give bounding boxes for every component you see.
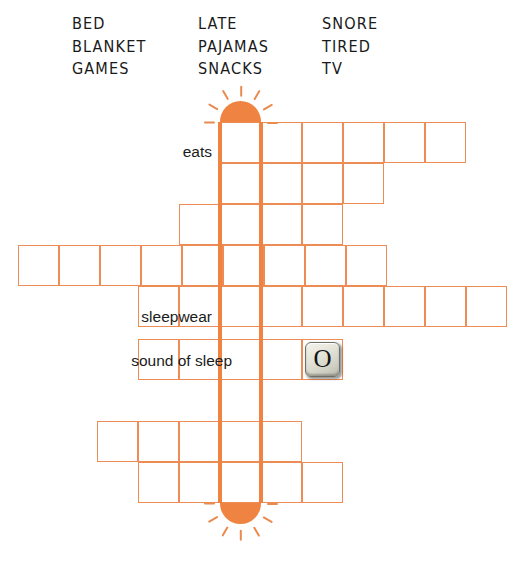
grid-cell[interactable] [261, 421, 302, 462]
grid-cell[interactable] [220, 204, 261, 245]
sun-ray-icon [263, 516, 273, 523]
grid-cell[interactable] [425, 286, 466, 327]
crossword-page: BED BLANKET GAMES LATE PAJAMAS SNACKS SN… [0, 0, 517, 561]
sun-ray-icon [204, 122, 215, 124]
grid-cell[interactable] [18, 245, 59, 286]
grid-cell[interactable] [384, 122, 425, 163]
grid-cell[interactable] [182, 245, 223, 286]
grid-cell[interactable] [302, 163, 343, 204]
sun-icon [220, 503, 261, 524]
grid-cell[interactable] [302, 286, 343, 327]
grid-cell[interactable] [100, 245, 141, 286]
sun-ray-icon [208, 104, 218, 111]
grid-cell[interactable] [261, 286, 302, 327]
thermometer-rail [218, 122, 221, 503]
grid-cell[interactable] [179, 421, 220, 462]
grid-cell[interactable] [384, 286, 425, 327]
prefilled-letter: O [313, 346, 331, 371]
crossword-grid: O [0, 0, 517, 561]
grid-cell[interactable] [223, 245, 264, 286]
grid-cell[interactable] [220, 421, 261, 462]
grid-cell[interactable] [220, 462, 261, 503]
grid-cell[interactable] [220, 163, 261, 204]
grid-cell[interactable] [302, 204, 343, 245]
sun-ray-icon [240, 86, 242, 97]
sun-ray-icon [208, 516, 218, 523]
grid-cell[interactable] [138, 421, 179, 462]
grid-cell[interactable] [97, 421, 138, 462]
grid-cell[interactable] [179, 462, 220, 503]
sun-ray-icon [204, 503, 215, 505]
sun-ray-icon [267, 503, 278, 505]
grid-cell[interactable] [220, 286, 261, 327]
clue-sound-of-sleep: sound of sleep [0, 352, 232, 370]
grid-cell[interactable] [138, 462, 179, 503]
grid-cell[interactable] [179, 204, 220, 245]
grid-cell[interactable] [264, 245, 305, 286]
grid-cell[interactable] [220, 122, 261, 163]
sun-ray-icon [253, 90, 260, 100]
sun-ray-icon [221, 90, 228, 100]
grid-cell[interactable] [302, 122, 343, 163]
sun-ray-icon [240, 530, 242, 541]
grid-cell[interactable] [261, 163, 302, 204]
thermometer-rail [259, 122, 262, 503]
clue-eats: eats [60, 143, 212, 161]
grid-cell[interactable] [343, 286, 384, 327]
sun-ray-icon [267, 122, 278, 124]
grid-cell[interactable] [59, 245, 100, 286]
grid-cell[interactable] [302, 462, 343, 503]
sun-icon [220, 101, 261, 122]
grid-cell[interactable] [261, 462, 302, 503]
grid-cell[interactable] [141, 245, 182, 286]
grid-cell[interactable] [343, 122, 384, 163]
sun-ray-icon [253, 526, 260, 536]
grid-cell[interactable] [425, 122, 466, 163]
grid-cell[interactable] [466, 286, 507, 327]
clue-sleepwear: sleepwear [20, 308, 212, 326]
grid-cell[interactable] [261, 204, 302, 245]
sun-ray-icon [221, 526, 228, 536]
grid-cell[interactable] [305, 245, 346, 286]
grid-cell[interactable] [261, 122, 302, 163]
grid-cell[interactable] [261, 339, 302, 380]
grid-cell[interactable] [343, 163, 384, 204]
grid-cell[interactable] [346, 245, 387, 286]
sun-ray-icon [263, 104, 273, 111]
prefilled-letter-tile[interactable]: O [305, 342, 340, 377]
